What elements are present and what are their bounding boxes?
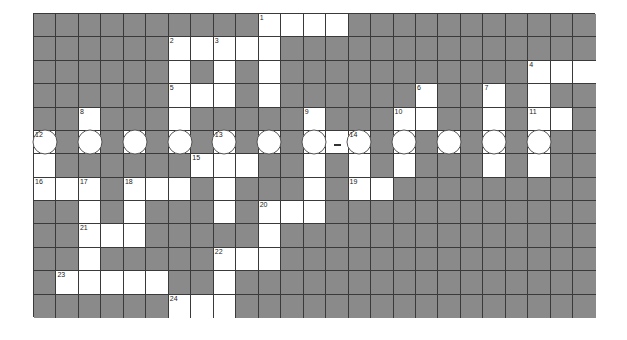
crossword-cell[interactable] <box>236 37 258 60</box>
crossword-cell[interactable]: 24 <box>169 295 191 318</box>
crossword-cell[interactable] <box>169 61 191 84</box>
crossword-cell[interactable] <box>349 154 371 177</box>
block-cell <box>236 14 258 37</box>
crossword-cell[interactable] <box>191 295 213 318</box>
crossword-cell[interactable]: 4 <box>528 61 550 84</box>
crossword-cell[interactable] <box>101 271 123 294</box>
crossword-cell[interactable] <box>281 201 303 224</box>
crossword-cell[interactable] <box>304 131 326 154</box>
crossword-cell[interactable] <box>573 61 595 84</box>
block-cell <box>101 14 123 37</box>
crossword-cell[interactable] <box>528 84 550 107</box>
crossword-cell[interactable]: 2 <box>169 37 191 60</box>
crossword-cell[interactable] <box>304 201 326 224</box>
crossword-cell[interactable] <box>304 178 326 201</box>
crossword-cell[interactable]: 6 <box>416 84 438 107</box>
crossword-cell[interactable] <box>281 14 303 37</box>
crossword-cell[interactable] <box>394 154 416 177</box>
crossword-cell[interactable] <box>169 131 191 154</box>
crossword-cell[interactable] <box>124 224 146 247</box>
crossword-cell[interactable] <box>236 154 258 177</box>
crossword-cell[interactable] <box>101 224 123 247</box>
crossword-cell[interactable] <box>551 108 573 131</box>
crossword-cell[interactable] <box>304 154 326 177</box>
crossword-cell[interactable] <box>259 131 281 154</box>
crossword-cell[interactable] <box>236 248 258 271</box>
crossword-cell[interactable]: 11 <box>528 108 550 131</box>
crossword-cell[interactable] <box>528 154 550 177</box>
crossword-cell[interactable] <box>304 14 326 37</box>
crossword-cell[interactable]: 22 <box>214 248 236 271</box>
crossword-cell[interactable]: 9 <box>304 108 326 131</box>
crossword-cell[interactable] <box>528 131 550 154</box>
crossword-cell[interactable] <box>191 84 213 107</box>
crossword-cell[interactable] <box>124 201 146 224</box>
crossword-cell[interactable]: 12 <box>34 131 56 154</box>
clue-number: 3 <box>215 37 219 45</box>
crossword-cell[interactable] <box>169 178 191 201</box>
crossword-cell[interactable] <box>124 271 146 294</box>
crossword-cell[interactable] <box>79 201 101 224</box>
crossword-cell[interactable] <box>214 154 236 177</box>
crossword-cell[interactable] <box>259 248 281 271</box>
crossword-cell[interactable] <box>214 61 236 84</box>
crossword-cell[interactable] <box>371 178 393 201</box>
crossword-cell[interactable]: 23 <box>56 271 78 294</box>
crossword-cell[interactable]: 19 <box>349 178 371 201</box>
crossword-cell[interactable] <box>214 295 236 318</box>
crossword-cell[interactable] <box>214 201 236 224</box>
crossword-cell[interactable]: 17 <box>79 178 101 201</box>
crossword-cell[interactable] <box>146 178 168 201</box>
crossword-cell[interactable] <box>214 84 236 107</box>
crossword-cell[interactable] <box>326 14 348 37</box>
crossword-cell[interactable]: 20 <box>259 201 281 224</box>
crossword-cell[interactable]: 16 <box>34 178 56 201</box>
crossword-cell[interactable] <box>259 61 281 84</box>
crossword-cell[interactable]: 5 <box>169 84 191 107</box>
block-cell <box>506 37 528 60</box>
block-cell <box>191 131 213 154</box>
crossword-cell[interactable] <box>56 178 78 201</box>
crossword-cell[interactable] <box>259 84 281 107</box>
block-cell <box>573 14 595 37</box>
crossword-cell[interactable]: 1 <box>259 14 281 37</box>
block-cell <box>281 178 303 201</box>
block-cell <box>551 224 573 247</box>
crossword-cell[interactable] <box>483 154 505 177</box>
crossword-cell[interactable] <box>214 271 236 294</box>
crossword-cell[interactable] <box>34 154 56 177</box>
block-cell <box>461 201 483 224</box>
crossword-cell[interactable]: 18 <box>124 178 146 201</box>
crossword-cell[interactable]: 13 <box>214 131 236 154</box>
crossword-cell[interactable] <box>79 131 101 154</box>
crossword-cell[interactable] <box>79 271 101 294</box>
crossword-cell[interactable] <box>79 248 101 271</box>
crossword-cell[interactable] <box>326 131 348 154</box>
block-cell <box>191 224 213 247</box>
crossword-cell[interactable] <box>169 108 191 131</box>
block-cell <box>304 271 326 294</box>
crossword-cell[interactable]: 10 <box>394 108 416 131</box>
crossword-cell[interactable] <box>551 61 573 84</box>
block-cell <box>483 271 505 294</box>
crossword-cell[interactable] <box>259 224 281 247</box>
crossword-cell[interactable]: 14 <box>349 131 371 154</box>
crossword-cell[interactable]: 3 <box>214 37 236 60</box>
crossword-cell[interactable] <box>259 37 281 60</box>
crossword-cell[interactable] <box>483 108 505 131</box>
crossword-cell[interactable] <box>416 108 438 131</box>
crossword-cell[interactable] <box>483 131 505 154</box>
block-cell <box>191 14 213 37</box>
crossword-cell[interactable] <box>191 37 213 60</box>
crossword-cell[interactable] <box>146 271 168 294</box>
crossword-cell[interactable] <box>124 131 146 154</box>
crossword-cell[interactable]: 7 <box>483 84 505 107</box>
block-cell <box>34 224 56 247</box>
crossword-cell[interactable] <box>394 131 416 154</box>
block-cell <box>56 201 78 224</box>
crossword-cell[interactable]: 15 <box>191 154 213 177</box>
crossword-cell[interactable] <box>438 131 460 154</box>
crossword-cell[interactable] <box>214 178 236 201</box>
crossword-cell[interactable]: 21 <box>79 224 101 247</box>
crossword-cell[interactable]: 8 <box>79 108 101 131</box>
